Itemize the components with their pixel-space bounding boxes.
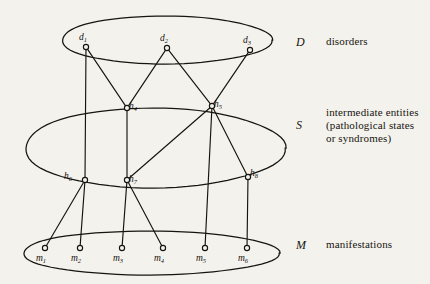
node-m1[interactable] — [42, 245, 47, 250]
edges-group — [46, 49, 248, 246]
legend-symbol-s: S — [296, 118, 302, 133]
nodes-group: d1d2d3h4h5h6h7h8m1m2m3m4m5m6 — [36, 32, 259, 264]
node-m5[interactable] — [202, 245, 207, 250]
node-h6[interactable] — [82, 177, 87, 182]
node-label-h7: h7 — [129, 174, 138, 185]
node-label-d3: d3 — [243, 35, 252, 46]
node-label-h8: h8 — [250, 168, 259, 179]
node-m3[interactable] — [119, 245, 124, 250]
node-m2[interactable] — [77, 245, 82, 250]
legend-text-intermediate-line2: (pathological states — [326, 119, 414, 131]
node-d3[interactable] — [247, 47, 252, 52]
legend-text-intermediate-line1: intermediate entities — [326, 106, 419, 118]
node-label-h6: h6 — [64, 171, 73, 182]
node-label-h5: h5 — [214, 99, 223, 110]
node-label-m4: m4 — [154, 253, 165, 264]
legend-text-intermediate-line3: or syndromes) — [326, 132, 391, 144]
edge-h7-m4 — [128, 182, 162, 245]
node-label-h4: h4 — [129, 101, 138, 112]
legend-symbol-m: M — [296, 238, 306, 253]
legend-text-disorders: disorders — [326, 35, 368, 47]
edge-d2-h5 — [169, 50, 211, 104]
legend-symbol-d: D — [296, 35, 305, 50]
edge-h7-m3 — [122, 183, 127, 246]
node-m4[interactable] — [160, 245, 165, 250]
node-d1[interactable] — [83, 44, 88, 49]
node-d2[interactable] — [164, 45, 169, 50]
edge-h5-h7 — [129, 108, 210, 179]
diagram-canvas: d1d2d3h4h5h6h7h8m1m2m3m4m5m6 D disorders… — [0, 0, 430, 284]
node-label-m3: m3 — [113, 253, 124, 264]
node-m6[interactable] — [244, 245, 249, 250]
node-label-d2: d2 — [160, 33, 169, 44]
edge-h5-m5 — [205, 109, 212, 246]
node-label-m1: m1 — [36, 253, 46, 264]
node-label-m2: m2 — [71, 253, 82, 264]
edge-d2-h4 — [128, 50, 165, 106]
node-label-d1: d1 — [79, 32, 87, 43]
edge-h6-m2 — [80, 183, 85, 246]
edge-h5-h8 — [213, 108, 247, 174]
node-label-m6: m6 — [238, 253, 249, 264]
legend-text-manifestations: manifestations — [326, 238, 392, 250]
edge-h8-m6 — [247, 180, 248, 246]
node-label-m5: m5 — [196, 253, 207, 264]
